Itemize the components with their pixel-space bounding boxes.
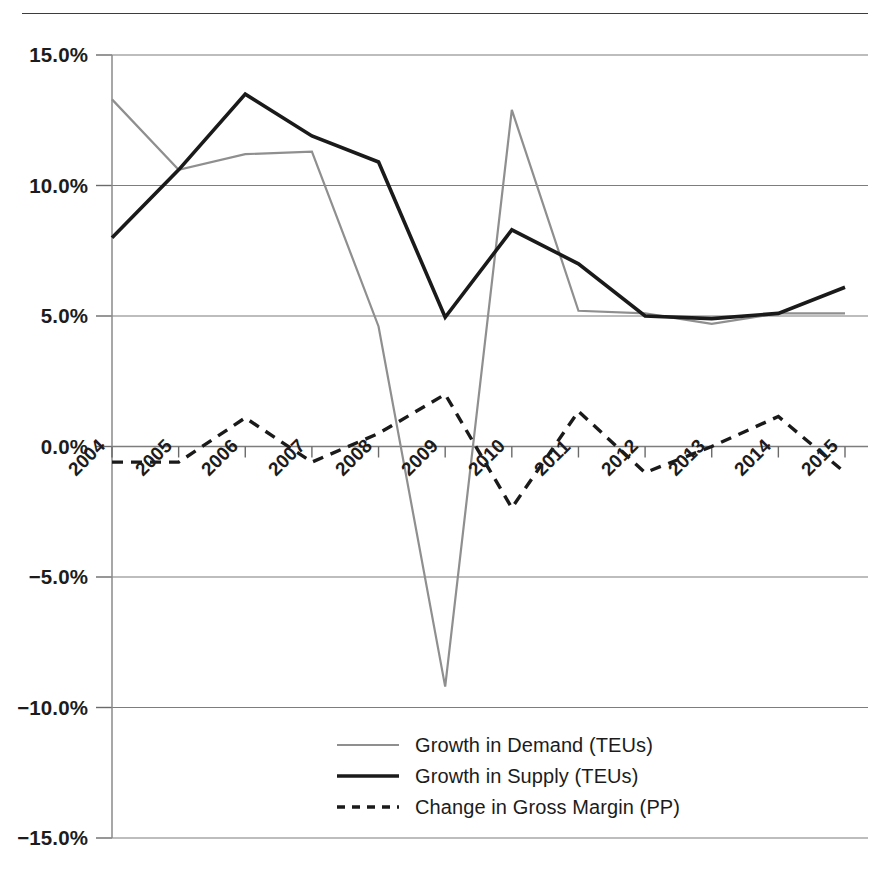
series-line-1	[112, 94, 845, 318]
chart-figure: 15.0%10.0%5.0%0.0%−5.0%−10.0%−15.0% 2004…	[0, 0, 890, 871]
legend-swatch-dashed-black-line	[337, 800, 399, 814]
y-axis-tick-label: −15.0%	[0, 826, 88, 850]
legend-label: Change in Gross Margin (PP)	[415, 796, 680, 819]
legend-label: Growth in Supply (TEUs)	[415, 765, 638, 788]
y-axis-tick-label: 5.0%	[0, 304, 88, 328]
legend-swatch-solid-black-line	[337, 769, 399, 783]
series-line-0	[112, 99, 845, 686]
y-axis-tick-label: 10.0%	[0, 174, 88, 198]
legend-label: Growth in Demand (TEUs)	[415, 734, 653, 757]
legend-swatch-solid-gray-line	[337, 738, 399, 752]
y-axis-tick-label: −5.0%	[0, 565, 88, 589]
y-axis-tick-label: 15.0%	[0, 43, 88, 67]
y-axis-tick-label: −10.0%	[0, 696, 88, 720]
